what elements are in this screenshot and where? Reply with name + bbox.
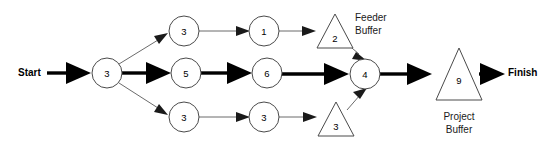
node-middle-5-label: 5	[183, 68, 188, 79]
node-merge-4-label: 4	[362, 69, 367, 80]
edge-feeder-buffer-bottom-to-merge4	[347, 88, 367, 110]
node-middle-6-label: 6	[264, 68, 269, 79]
feeder-buffer-top-label: 2	[332, 33, 337, 44]
node-middle-5[interactable]: 5	[171, 58, 201, 88]
edge-start3-to-bottom3	[119, 83, 168, 115]
edge-top3-to-top1	[199, 26, 250, 36]
node-bottom-3b[interactable]: 3	[249, 102, 279, 132]
node-top-1[interactable]: 1	[249, 16, 279, 46]
edge-node6-to-merge4	[282, 63, 349, 85]
edge-start3-to-top3	[119, 33, 168, 64]
feeder-buffer-caption: Feeder Buffer	[355, 12, 387, 38]
project-buffer-triangle[interactable]: 9	[436, 48, 482, 100]
node-start-3-label: 3	[104, 68, 109, 79]
edge-bottom3b-to-feeder-buffer	[279, 112, 317, 122]
node-bottom-3a-label: 3	[181, 112, 186, 123]
feeder-buffer-triangle-top[interactable]: 2	[317, 14, 353, 48]
project-buffer-caption: Project Buffer	[428, 111, 490, 137]
edge-top1-to-feeder-buffer	[279, 26, 316, 36]
node-top-1-label: 1	[261, 26, 266, 37]
finish-label: Finish	[508, 68, 537, 78]
node-middle-6[interactable]: 6	[252, 58, 282, 88]
node-top-3-label: 3	[181, 26, 186, 37]
edge-node3-to-node5	[122, 62, 171, 84]
project-buffer-label: 9	[456, 75, 461, 86]
node-merge-4[interactable]: 4	[350, 59, 380, 89]
feeder-buffer-bottom-label: 3	[333, 121, 338, 132]
feeder-buffer-caption-line1: Feeder	[355, 12, 387, 25]
edge-project-buffer-to-finish	[479, 63, 505, 85]
feeder-buffer-caption-line2: Buffer	[355, 25, 387, 38]
edge-merge4-to-project-buffer	[380, 63, 432, 85]
start-label: Start	[18, 68, 41, 78]
node-bottom-3b-label: 3	[261, 112, 266, 123]
edge-bottom3a-to-bottom3b	[199, 112, 250, 122]
edge-start-to-node3	[47, 62, 91, 84]
node-top-3[interactable]: 3	[169, 16, 199, 46]
project-network-diagram: 3 3 1 5 6 3 3 4	[0, 0, 551, 148]
project-buffer-caption-line1: Project	[428, 111, 490, 124]
feeder-buffer-triangle-bottom[interactable]: 3	[318, 102, 354, 136]
edge-node5-to-node6	[201, 62, 252, 84]
project-buffer-caption-line2: Buffer	[428, 124, 490, 137]
node-bottom-3a[interactable]: 3	[169, 102, 199, 132]
node-start-3[interactable]: 3	[92, 58, 122, 88]
